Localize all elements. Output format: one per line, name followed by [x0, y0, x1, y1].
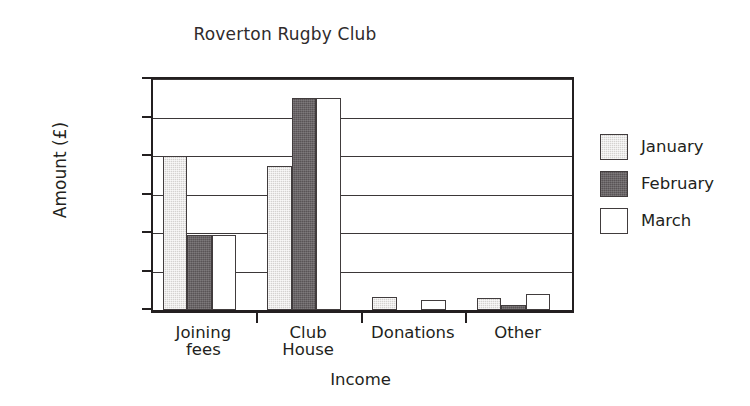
legend-item-january[interactable]: January [600, 128, 714, 165]
chart-title: Roverton Rugby Club [0, 24, 570, 44]
gridline [153, 233, 572, 234]
legend-item-march[interactable]: March [600, 202, 714, 239]
x-axis-category-label: Joiningfees [151, 324, 256, 359]
x-axis-tick [256, 310, 258, 323]
x-axis-category-label-line: Joining [151, 324, 256, 341]
bar-chart-figure: Roverton Rugby Club Amount (£) Income Ja… [0, 0, 750, 406]
y-axis-tick [142, 193, 151, 195]
legend-label: January [641, 137, 704, 156]
bar-march-donations [421, 300, 446, 310]
y-axis-tick [142, 231, 151, 233]
chart-legend: JanuaryFebruaryMarch [600, 128, 714, 239]
plot-area [151, 77, 574, 313]
x-axis-category-label: Other [465, 324, 570, 341]
bar-january-club-house [267, 166, 292, 310]
y-axis-label: Amount (£) [50, 90, 70, 250]
x-axis-category-label-line: Other [465, 324, 570, 341]
legend-swatch-march [600, 208, 628, 234]
legend-swatch-february [600, 171, 628, 197]
legend-label: February [641, 174, 714, 193]
legend-label: March [641, 211, 691, 230]
legend-item-february[interactable]: February [600, 165, 714, 202]
x-axis-category-label: ClubHouse [256, 324, 361, 359]
bar-february-other [501, 305, 526, 310]
x-axis-tick [361, 310, 363, 323]
bar-march-other [526, 294, 551, 310]
legend-swatch-january [600, 134, 628, 160]
x-axis-category-label-line: House [256, 341, 361, 358]
bar-january-joining-fees [163, 156, 188, 310]
x-axis-label: Income [151, 370, 570, 389]
y-axis-tick [142, 77, 151, 79]
bar-february-club-house [292, 98, 317, 310]
bar-january-donations [372, 297, 397, 310]
gridline [153, 118, 572, 119]
bar-march-joining-fees [212, 235, 237, 310]
x-axis-category-label-line: Club [256, 324, 361, 341]
bar-january-other [477, 298, 502, 310]
bar-march-club-house [316, 98, 341, 310]
y-axis-tick [142, 270, 151, 272]
gridline [153, 79, 572, 80]
gridline [153, 195, 572, 196]
gridline [153, 156, 572, 157]
x-axis-category-label-line: fees [151, 341, 256, 358]
x-axis-category-label-line: Donations [361, 324, 466, 341]
y-axis-tick [142, 116, 151, 118]
x-axis-tick [465, 310, 467, 323]
bar-february-joining-fees [187, 235, 212, 310]
y-axis-tick [142, 154, 151, 156]
x-axis-category-label: Donations [361, 324, 466, 341]
y-axis-tick [142, 308, 151, 310]
